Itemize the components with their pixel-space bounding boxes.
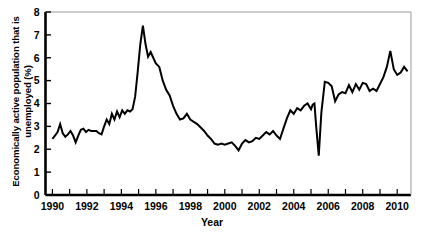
svg-text:2: 2	[34, 143, 40, 155]
svg-text:2000: 2000	[213, 200, 237, 212]
svg-text:2006: 2006	[317, 200, 341, 212]
svg-text:1990: 1990	[41, 200, 65, 212]
svg-text:3: 3	[34, 120, 40, 132]
chart-figure: Economically active population that is u…	[0, 0, 424, 236]
svg-text:5: 5	[34, 74, 40, 86]
svg-text:2004: 2004	[282, 200, 306, 212]
svg-text:1: 1	[34, 166, 40, 178]
svg-text:4: 4	[34, 97, 40, 109]
svg-text:8: 8	[34, 6, 40, 18]
x-axis-ticks	[52, 189, 397, 195]
plot-area: 012345678 199019921994199619982000200220…	[0, 0, 424, 236]
y-axis-tick-labels: 012345678	[34, 6, 40, 201]
svg-text:1996: 1996	[144, 200, 168, 212]
svg-text:2010: 2010	[386, 200, 410, 212]
svg-text:1998: 1998	[179, 200, 203, 212]
x-axis-tick-labels: 1990199219941996199820002002200420062008…	[41, 200, 409, 212]
svg-text:2008: 2008	[351, 200, 375, 212]
data-series-line	[52, 26, 407, 156]
svg-text:7: 7	[34, 29, 40, 41]
svg-text:0: 0	[34, 189, 40, 201]
line-chart-svg: 012345678 199019921994199619982000200220…	[0, 0, 424, 236]
svg-text:6: 6	[34, 52, 40, 64]
svg-text:2002: 2002	[248, 200, 272, 212]
svg-text:1992: 1992	[75, 200, 99, 212]
svg-text:1994: 1994	[110, 200, 134, 212]
axes-frame	[46, 12, 412, 195]
x-axis-title: Year	[0, 216, 424, 228]
